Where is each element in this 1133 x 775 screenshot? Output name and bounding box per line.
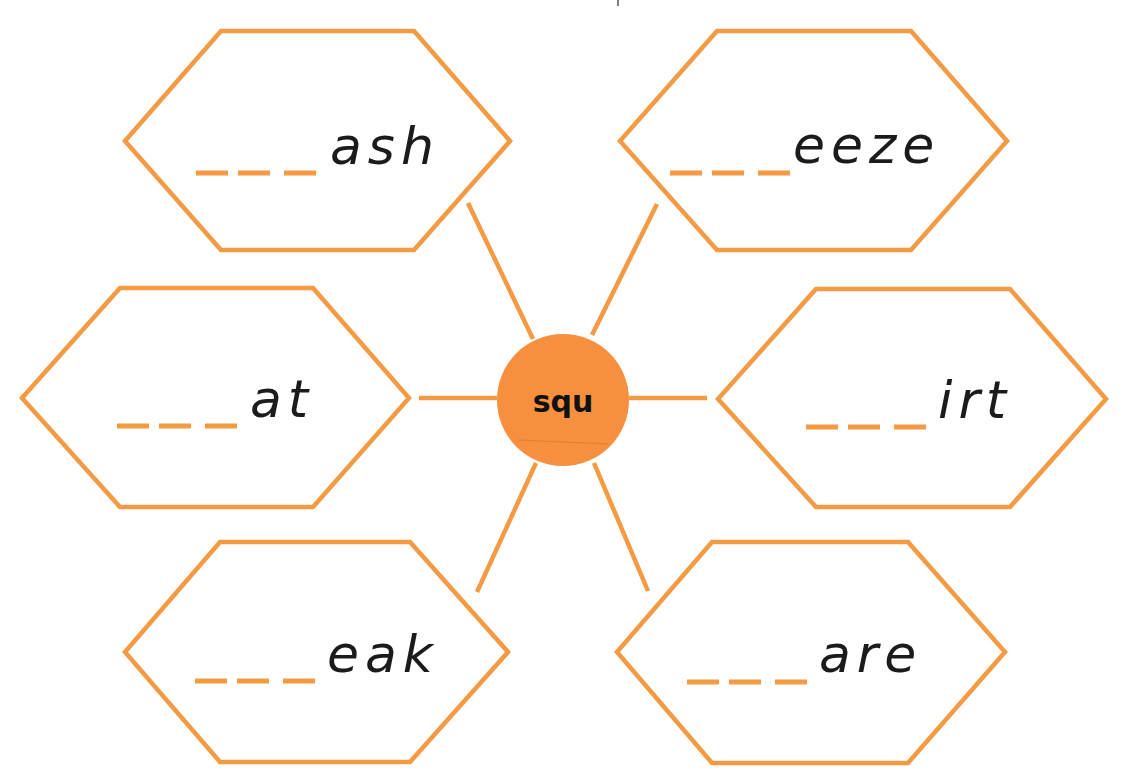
hexagon-frame — [617, 542, 1005, 763]
word-card-irt[interactable]: irt — [718, 289, 1106, 507]
spoke-bottom-right — [594, 463, 648, 591]
hexagon-frame — [125, 31, 510, 250]
word-card-eeze[interactable]: eeze — [620, 31, 1007, 250]
center-label: squ — [533, 384, 594, 419]
word-card-ash[interactable]: ash — [125, 31, 510, 250]
spoke-bottom-left — [477, 463, 536, 592]
word-card-at[interactable]: at — [22, 288, 409, 507]
word-card-eak[interactable]: eak — [125, 542, 508, 762]
word-ending: are — [819, 624, 922, 684]
hexagon-frame — [718, 289, 1106, 507]
word-card-are[interactable]: are — [617, 542, 1005, 763]
word-ending: irt — [938, 370, 1012, 430]
hexagon-frame — [125, 542, 508, 762]
center-hub: squ — [497, 334, 629, 466]
word-ending: eak — [327, 624, 439, 684]
word-ending: ash — [330, 116, 440, 176]
spoke-top-left — [468, 203, 533, 339]
word-ending: eeze — [793, 115, 940, 175]
word-ending: at — [250, 369, 314, 429]
hexagon-frame — [22, 288, 409, 507]
spoke-top-right — [592, 204, 657, 335]
word-web-diagram: ash eeze at irt eak are squ — [0, 0, 1133, 775]
